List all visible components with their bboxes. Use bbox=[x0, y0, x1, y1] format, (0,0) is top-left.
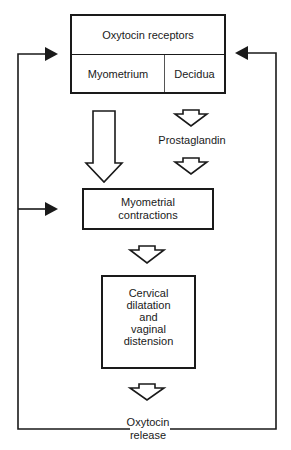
prostaglandin-label: Prostaglandin bbox=[150, 134, 234, 147]
arrow-right-to-contractions-icon bbox=[45, 202, 58, 216]
hollow-arrow-contractions-icon bbox=[130, 246, 164, 263]
arrow-left-to-receptors-icon bbox=[235, 46, 248, 60]
arrow-right-to-receptors-icon bbox=[45, 47, 58, 61]
oxytocin-release-line2: release bbox=[118, 429, 178, 442]
hollow-arrow-prostaglandin-icon bbox=[175, 158, 207, 174]
myometrial-contractions-box: Myometrial contractions bbox=[82, 188, 214, 230]
cervical-line5: distension bbox=[103, 335, 194, 348]
hollow-arrow-decidua-icon bbox=[175, 110, 207, 126]
contractions-line1: Myometrial bbox=[84, 196, 212, 209]
myometrium-cell: Myometrium bbox=[72, 55, 165, 92]
cervical-dilatation-box: Cervical dilatation and vaginal distensi… bbox=[101, 275, 196, 369]
oxytocin-release-line1: Oxytocin bbox=[118, 416, 178, 429]
hollow-arrow-cervical-icon bbox=[130, 384, 164, 400]
hollow-arrow-long-icon bbox=[86, 111, 122, 182]
decidua-cell: Decidua bbox=[165, 55, 224, 92]
contractions-line2: contractions bbox=[84, 209, 212, 222]
receptors-title: Oxytocin receptors bbox=[72, 16, 224, 55]
oxytocin-receptors-box: Oxytocin receptors Myometrium Decidua bbox=[70, 14, 226, 94]
